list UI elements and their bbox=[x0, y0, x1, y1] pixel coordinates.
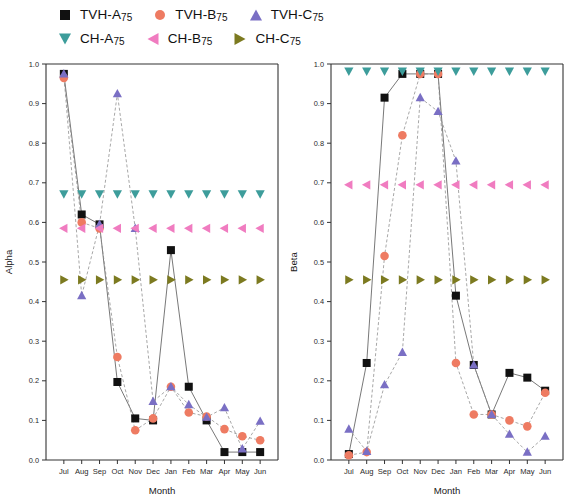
svg-text:May: May bbox=[235, 467, 250, 476]
svg-text:May: May bbox=[520, 467, 535, 476]
data-point bbox=[131, 190, 140, 198]
data-point bbox=[149, 275, 157, 284]
svg-text:0.4: 0.4 bbox=[29, 297, 39, 306]
legend-item-tvh_b[interactable]: TVH-B75 bbox=[152, 7, 227, 23]
y-axis-ticks: 0.00.10.20.30.40.50.60.70.80.91.0 bbox=[314, 60, 331, 465]
data-point bbox=[220, 425, 229, 434]
data-point bbox=[345, 275, 353, 284]
data-point bbox=[469, 68, 478, 76]
legend-label-tvh_b: TVH-B75 bbox=[175, 7, 227, 23]
svg-text:0.4: 0.4 bbox=[314, 297, 324, 306]
series-line-TVH-A75 bbox=[64, 74, 260, 452]
svg-text:Dec: Dec bbox=[146, 467, 160, 476]
svg-text:0.1: 0.1 bbox=[314, 416, 324, 425]
data-point bbox=[363, 275, 371, 284]
svg-text:0.2: 0.2 bbox=[314, 376, 324, 385]
plot-beta: 0.00.10.20.30.40.50.60.70.80.91.0JulAugS… bbox=[285, 56, 570, 501]
data-point bbox=[469, 410, 478, 419]
triangle-left-marker-icon bbox=[145, 31, 161, 47]
legend-item-ch_c[interactable]: CH-C75 bbox=[232, 31, 300, 47]
series-markers-CH-B75 bbox=[59, 224, 264, 233]
data-point bbox=[221, 275, 229, 284]
data-point bbox=[399, 275, 407, 284]
svg-text:0.7: 0.7 bbox=[314, 178, 324, 187]
data-point bbox=[77, 291, 86, 299]
svg-text:Jun: Jun bbox=[539, 467, 551, 476]
data-point bbox=[416, 93, 425, 101]
svg-text:Sep: Sep bbox=[93, 467, 107, 476]
series-markers-CH-C75 bbox=[60, 275, 265, 284]
svg-text:0.8: 0.8 bbox=[314, 139, 324, 148]
svg-text:0.5: 0.5 bbox=[314, 258, 324, 267]
legend-item-ch_b[interactable]: CH-B75 bbox=[145, 31, 213, 47]
svg-text:Apr: Apr bbox=[219, 467, 231, 476]
data-point bbox=[505, 369, 513, 377]
series-markers-TVH-B75 bbox=[345, 70, 550, 460]
data-point bbox=[398, 131, 407, 140]
svg-text:0.9: 0.9 bbox=[314, 99, 324, 108]
x-axis-title: Month bbox=[149, 485, 176, 496]
svg-text:0.0: 0.0 bbox=[29, 456, 39, 465]
legend-item-ch_a[interactable]: CH-A75 bbox=[57, 31, 125, 47]
svg-text:Mar: Mar bbox=[200, 467, 214, 476]
data-point bbox=[523, 422, 532, 431]
data-point bbox=[362, 68, 371, 76]
svg-text:Sep: Sep bbox=[378, 467, 392, 476]
data-point bbox=[185, 383, 193, 391]
data-point bbox=[523, 374, 531, 382]
legend-item-tvh_a[interactable]: TVH-A75 bbox=[57, 7, 132, 23]
data-point bbox=[398, 180, 406, 189]
data-point bbox=[505, 68, 514, 76]
svg-text:0.2: 0.2 bbox=[29, 376, 39, 385]
svg-text:Jan: Jan bbox=[165, 467, 177, 476]
data-point bbox=[132, 275, 140, 284]
data-point bbox=[541, 431, 550, 439]
y-axis-title: Alpha bbox=[3, 249, 14, 274]
svg-text:Jun: Jun bbox=[254, 467, 266, 476]
series-markers-CH-C75 bbox=[345, 275, 550, 284]
data-point bbox=[488, 275, 496, 284]
data-point bbox=[362, 180, 370, 189]
data-point bbox=[184, 190, 193, 198]
series-line-TVH-A75 bbox=[349, 74, 545, 454]
data-point bbox=[417, 275, 425, 284]
data-point bbox=[433, 180, 441, 189]
data-point bbox=[380, 180, 388, 189]
data-point bbox=[451, 68, 460, 76]
data-point bbox=[256, 416, 265, 424]
legend-item-tvh_c[interactable]: TVH-C75 bbox=[248, 7, 324, 23]
data-point bbox=[469, 180, 477, 189]
data-point bbox=[506, 275, 514, 284]
series-markers-TVH-B75 bbox=[60, 74, 265, 445]
svg-text:0.1: 0.1 bbox=[29, 416, 39, 425]
series-markers-TVH-C75 bbox=[344, 93, 550, 456]
data-point bbox=[149, 414, 158, 423]
x-axis-ticks: JulAugSepOctNovDecJanFebMarAprMayJun bbox=[59, 460, 266, 476]
chart-panel-alpha: 0.00.10.20.30.40.50.60.70.80.91.0JulAugS… bbox=[0, 56, 285, 501]
data-point bbox=[451, 156, 460, 164]
data-point bbox=[380, 380, 389, 388]
data-point bbox=[184, 408, 193, 417]
legend-row-2: CH-A75CH-B75CH-C75 bbox=[57, 31, 321, 47]
data-point bbox=[505, 416, 514, 425]
series-markers-TVH-A75 bbox=[60, 70, 264, 456]
axes-frame bbox=[46, 64, 278, 460]
data-point bbox=[452, 292, 460, 300]
data-point bbox=[148, 397, 157, 405]
data-point bbox=[363, 359, 371, 367]
chart-legend: TVH-A75TVH-B75TVH-C75CH-A75CH-B75CH-C75 bbox=[0, 0, 570, 56]
data-point bbox=[113, 89, 122, 97]
data-point bbox=[344, 180, 352, 189]
svg-text:0.6: 0.6 bbox=[29, 218, 39, 227]
data-point bbox=[148, 224, 156, 233]
svg-text:Feb: Feb bbox=[467, 467, 480, 476]
x-axis-ticks: JulAugSepOctNovDecJanFebMarAprMayJun bbox=[344, 460, 551, 476]
svg-text:Mar: Mar bbox=[485, 467, 499, 476]
circle-marker-icon bbox=[152, 7, 168, 23]
data-point bbox=[380, 68, 389, 76]
svg-text:Oct: Oct bbox=[396, 467, 409, 476]
triangle-up-marker-icon bbox=[248, 7, 264, 23]
svg-text:Dec: Dec bbox=[431, 467, 445, 476]
data-point bbox=[381, 275, 389, 284]
svg-text:Nov: Nov bbox=[413, 467, 427, 476]
